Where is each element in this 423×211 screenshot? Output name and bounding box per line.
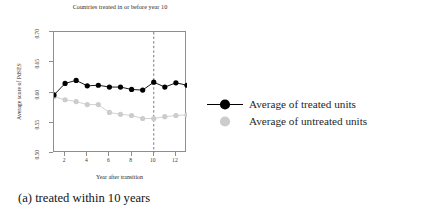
series-layer [54,78,187,121]
x-axis-tick [175,152,176,156]
data-point [140,87,145,92]
x-axis-tick-label: 2 [63,157,66,164]
data-point [96,102,101,107]
x-axis-tick-label: 12 [172,157,178,164]
plot-svg [54,32,187,153]
legend-marker-untreated [205,113,245,130]
data-point [162,84,167,89]
data-point [184,112,187,117]
data-point [184,83,187,88]
chart-title: Countries treated in or before year 10 [53,3,187,11]
data-point [85,102,90,107]
y-axis-title: Average score of PdSES [14,31,24,152]
x-axis-tick [64,152,65,156]
y-axis-tick-label: 0.70 [34,29,39,38]
chart-legend: Average of treated units Average of untr… [205,96,420,132]
data-point [140,116,145,121]
legend-marker-treated [205,96,245,113]
x-axis-tick [86,152,87,156]
figure-panel: Countries treated in or before year 10 A… [0,0,423,211]
x-axis: 24681012 [53,152,186,159]
data-point [107,110,112,115]
data-point [118,112,123,117]
data-point [118,84,123,89]
data-point [62,81,67,86]
data-point [173,80,178,85]
x-axis-tick-label: 10 [150,157,156,164]
y-axis-tick-label: 0.65 [34,59,39,68]
data-point [162,114,167,119]
x-axis-tick-label: 8 [129,157,132,164]
filled-circle-with-line-icon [205,96,245,113]
legend-item-untreated: Average of untreated units [205,113,420,130]
data-point [74,78,79,83]
chart-figure: Countries treated in or before year 10 A… [0,0,423,188]
y-axis-tick-label: 0.50 [34,150,39,159]
data-point [129,87,134,92]
data-point [74,99,79,104]
x-axis-tick [108,152,109,156]
y-axis [46,31,53,152]
data-point [62,97,67,102]
data-point [107,84,112,89]
data-point [85,83,90,88]
legend-label-untreated: Average of untreated units [249,113,367,130]
data-point [151,80,156,85]
y-axis-tick-label: 0.55 [34,120,39,129]
data-point [129,113,134,118]
x-axis-tick [131,152,132,156]
figure-caption: (a) treated within 10 years [18,189,150,208]
data-point [173,113,178,118]
plot-area [53,31,186,152]
filled-circle-icon [205,113,245,130]
x-axis-tick-label: 4 [85,157,88,164]
legend-item-treated: Average of treated units [205,96,420,113]
x-axis-title: Year after transition [53,173,186,181]
legend-label-treated: Average of treated units [249,96,356,113]
y-axis-tick-label: 0.60 [34,89,39,98]
x-axis-tick [153,152,154,156]
data-point [96,83,101,88]
data-point [151,116,156,121]
x-axis-tick-label: 6 [107,157,110,164]
